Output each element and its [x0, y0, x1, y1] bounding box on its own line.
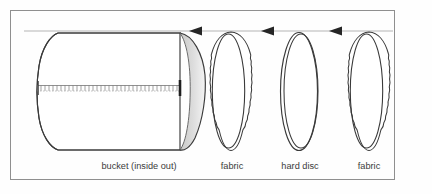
bucket-assembly-diagram: bucket (inside out) fabric hard disc fab…	[0, 0, 432, 194]
hard-disc-outer-edge	[281, 33, 318, 151]
label-fabric-back: fabric	[358, 161, 381, 171]
figure-container: bucket (inside out) fabric hard disc fab…	[0, 0, 432, 194]
label-fabric-front: fabric	[221, 161, 244, 171]
bucket-body	[37, 33, 180, 150]
bucket-stitch-band	[37, 86, 180, 91]
part-hard-disc	[281, 33, 319, 151]
label-hard-disc: hard disc	[281, 161, 319, 171]
label-bucket: bucket (inside out)	[101, 161, 176, 171]
part-bucket	[37, 33, 205, 150]
